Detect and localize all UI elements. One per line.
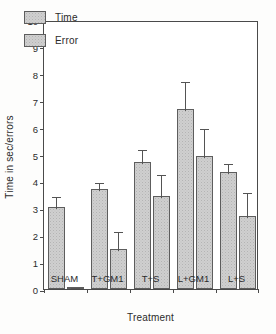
bar: [196, 156, 213, 289]
plot-area: 012345678910: [43, 21, 258, 290]
error-bar-cap: [181, 82, 190, 83]
y-tick-label: 4: [33, 177, 38, 188]
y-tick-label: 1: [33, 258, 38, 269]
x-axis-title: Treatment: [43, 312, 258, 323]
y-tick-mark: [40, 210, 44, 211]
error-bar-line: [228, 164, 229, 174]
bar: [134, 162, 151, 289]
y-tick-mark: [40, 237, 44, 238]
x-tick-mark: [216, 289, 217, 293]
chart-figure: Time in sec/errors 012345678910 SHAMT+GM…: [0, 0, 276, 334]
error-bar-cap: [200, 129, 209, 130]
bar: [220, 172, 237, 289]
error-bar-cap: [114, 232, 123, 233]
y-tick-label: 2: [33, 231, 38, 242]
error-bar-line: [99, 183, 100, 191]
error-bar-cap: [224, 164, 233, 165]
y-tick-mark: [40, 156, 44, 157]
x-tick-label: T+GM1: [92, 273, 124, 284]
y-axis-title: Time in sec/errors: [2, 22, 18, 292]
y-tick-label: 8: [33, 70, 38, 81]
error-bar-cap: [52, 197, 61, 198]
x-tick-label: L+S: [228, 273, 245, 284]
y-tick-label: 6: [33, 124, 38, 135]
error-bar-line: [247, 193, 248, 217]
error-bar-cap: [243, 193, 252, 194]
error-bar-line: [204, 129, 205, 159]
bar: [177, 109, 194, 289]
legend-item: Time: [24, 8, 78, 26]
y-tick-mark: [40, 183, 44, 184]
x-tick-mark: [258, 289, 259, 293]
error-bar-line: [142, 150, 143, 164]
chart-legend: TimeError: [24, 8, 78, 54]
y-tick-mark: [40, 102, 44, 103]
y-tick-label: 0: [33, 285, 38, 296]
error-bar-line: [56, 197, 57, 209]
y-tick-label: 3: [33, 204, 38, 215]
x-tick-label: L+GM1: [178, 273, 209, 284]
error-bar-line: [161, 175, 162, 198]
error-bar-cap: [95, 183, 104, 184]
error-bar-cap: [71, 288, 80, 289]
x-tick-label: SHAM: [51, 273, 78, 284]
y-tick-mark: [40, 264, 44, 265]
x-tick-mark: [130, 289, 131, 293]
legend-swatch: [24, 34, 46, 47]
legend-swatch: [24, 11, 46, 24]
error-bar-cap: [157, 175, 166, 176]
y-tick-mark: [40, 75, 44, 76]
error-bar-cap: [138, 150, 147, 151]
x-tick-label: T+S: [142, 273, 160, 284]
legend-label: Time: [55, 12, 78, 23]
error-bar-line: [118, 232, 119, 251]
x-tick-mark: [44, 289, 45, 293]
x-tick-mark: [87, 289, 88, 293]
y-tick-mark: [40, 129, 44, 130]
y-tick-label: 5: [33, 151, 38, 162]
x-tick-mark: [173, 289, 174, 293]
error-bar-line: [185, 82, 186, 111]
y-tick-label: 7: [33, 97, 38, 108]
legend-item: Error: [24, 31, 78, 49]
legend-label: Error: [55, 35, 78, 46]
